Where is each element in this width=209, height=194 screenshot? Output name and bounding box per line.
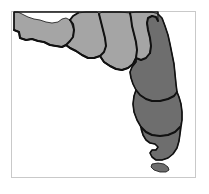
map-region-florida-keys-island [151,163,169,172]
map-canvas [0,0,209,194]
florida-region-map-figure [0,0,209,194]
